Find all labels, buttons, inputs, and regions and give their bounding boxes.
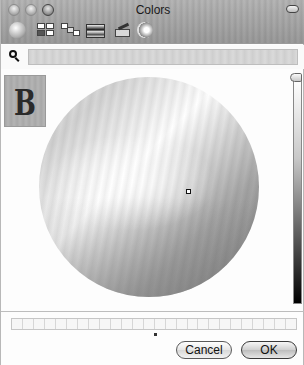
swatch-cell[interactable] xyxy=(133,319,144,329)
search-row xyxy=(1,45,304,69)
swatch-cell[interactable] xyxy=(220,319,231,329)
search-input[interactable] xyxy=(28,49,298,65)
search-icon xyxy=(9,50,21,62)
crayons-icon[interactable] xyxy=(115,24,131,38)
swatch-cell[interactable] xyxy=(286,319,296,329)
swatch-cell[interactable] xyxy=(78,319,89,329)
swatch-cell[interactable] xyxy=(253,319,264,329)
swatch-cell[interactable] xyxy=(56,319,67,329)
swatch-cell[interactable] xyxy=(144,319,155,329)
swatch-cell[interactable] xyxy=(111,319,122,329)
spectrum-icon[interactable] xyxy=(86,24,105,38)
swatch-cell[interactable] xyxy=(166,319,177,329)
toolbar-toggle-button[interactable] xyxy=(286,5,299,13)
palettes-icon[interactable] xyxy=(61,22,79,38)
swatch-cell[interactable] xyxy=(45,319,56,329)
swatch-strip[interactable] xyxy=(11,318,297,330)
swatch-cell[interactable] xyxy=(67,319,78,329)
color-wheel[interactable] xyxy=(39,77,259,297)
swatch-cell[interactable] xyxy=(23,319,34,329)
magnifier-icon[interactable] xyxy=(137,22,153,38)
divider xyxy=(1,311,304,312)
swatch-cell[interactable] xyxy=(209,319,220,329)
swatch-cell[interactable] xyxy=(177,319,188,329)
colors-window: Colors B xyxy=(0,0,304,365)
window-title: Colors xyxy=(1,3,304,17)
preview-letter: B xyxy=(11,81,40,123)
ok-button[interactable]: OK xyxy=(241,341,297,359)
swatch-cell[interactable] xyxy=(198,319,209,329)
brightness-slider[interactable] xyxy=(293,79,302,304)
swatch-cell[interactable] xyxy=(188,319,199,329)
color-wheel-icon[interactable] xyxy=(9,22,26,39)
sliders-icon[interactable] xyxy=(37,22,55,38)
title-bar: Colors xyxy=(1,0,304,44)
brightness-slider-knob[interactable] xyxy=(290,73,302,82)
swatch-cell[interactable] xyxy=(100,319,111,329)
swatch-cell[interactable] xyxy=(275,319,286,329)
swatch-cell[interactable] xyxy=(155,319,166,329)
swatch-cell[interactable] xyxy=(12,319,23,329)
swatch-cell[interactable] xyxy=(264,319,275,329)
swatch-cell[interactable] xyxy=(89,319,100,329)
swatch-cell[interactable] xyxy=(231,319,242,329)
swatch-cell[interactable] xyxy=(242,319,253,329)
swatch-cell[interactable] xyxy=(122,319,133,329)
color-wheel-cursor[interactable] xyxy=(186,189,191,194)
cancel-button[interactable]: Cancel xyxy=(176,341,232,359)
swatch-cell[interactable] xyxy=(34,319,45,329)
swatch-resize-handle[interactable] xyxy=(154,333,157,336)
